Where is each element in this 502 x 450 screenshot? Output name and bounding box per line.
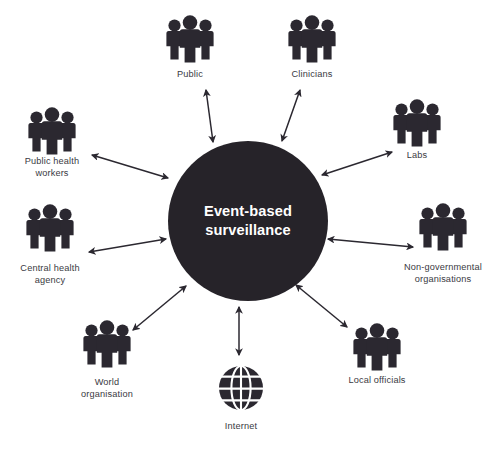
- connector-clinicians: [282, 90, 300, 141]
- node-label-local-officials: Local officials: [348, 375, 405, 385]
- node-label-world-organisation: Worldorganisation: [81, 377, 133, 399]
- people-group-icon: [288, 15, 335, 62]
- node-label-internet: Internet: [225, 421, 258, 431]
- node-label-clinicians: Clinicians: [292, 69, 333, 79]
- node-label-central-health-agency: Central healthagency: [20, 263, 79, 285]
- people-group-icon: [419, 203, 466, 250]
- node-label-public-health-workers: Public healthworkers: [25, 156, 80, 178]
- connector-world-organisation: [133, 286, 186, 330]
- globe-icon: [219, 366, 263, 410]
- node-public-health-workers: Public healthworkers: [25, 107, 80, 178]
- diagram-canvas: Event-basedsurveillance PublicClinicians…: [0, 0, 502, 450]
- connector-central-health-agency: [89, 239, 166, 252]
- connector-local-officials: [296, 285, 347, 327]
- node-clinicians: Clinicians: [288, 15, 335, 79]
- node-internet: Internet: [219, 366, 263, 431]
- node-local-officials: Local officials: [348, 323, 405, 385]
- people-group-icon: [28, 107, 75, 154]
- people-group-icon: [166, 15, 213, 62]
- node-label-labs: Labs: [407, 150, 428, 160]
- hub-layer: Event-basedsurveillance: [168, 141, 328, 301]
- people-group-icon: [353, 323, 400, 370]
- connector-public-health-workers: [92, 155, 168, 178]
- people-group-icon: [393, 99, 440, 146]
- node-label-public: Public: [177, 69, 203, 79]
- event-based-surveillance-diagram: Event-basedsurveillance PublicClinicians…: [0, 0, 502, 450]
- node-labs: Labs: [393, 99, 440, 160]
- node-ngo: Non-governmentalorganisations: [404, 203, 482, 284]
- connector-ngo: [328, 239, 413, 247]
- node-world-organisation: Worldorganisation: [81, 320, 133, 399]
- connector-public: [206, 90, 213, 142]
- people-group-icon: [83, 320, 130, 367]
- node-central-health-agency: Central healthagency: [20, 204, 79, 285]
- node-label-ngo: Non-governmentalorganisations: [404, 262, 482, 284]
- connector-labs: [322, 152, 392, 175]
- node-public: Public: [166, 15, 213, 79]
- hub-circle: [168, 141, 328, 301]
- people-group-icon: [26, 204, 73, 251]
